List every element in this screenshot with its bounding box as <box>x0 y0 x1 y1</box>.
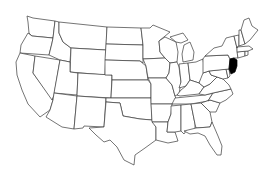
state-wyoming <box>70 48 106 75</box>
state-new-jersey-highlighted <box>229 58 237 74</box>
state-north-dakota <box>106 27 143 45</box>
state-new-york <box>205 36 238 59</box>
state-massachusetts <box>237 46 253 52</box>
us-map-svg <box>0 0 262 176</box>
us-map: United States map New Jersey <box>0 0 262 176</box>
state-kansas <box>111 80 151 98</box>
state-rhode-island <box>245 51 248 56</box>
state-new-mexico <box>74 96 106 129</box>
state-colorado <box>77 73 112 98</box>
state-maine <box>241 18 258 44</box>
state-washington <box>27 16 55 38</box>
